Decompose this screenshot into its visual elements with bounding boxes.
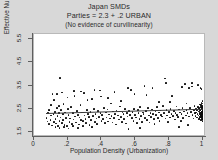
scatter-point (124, 108, 126, 110)
scatter-point (123, 113, 125, 115)
scatter-point (58, 105, 60, 107)
scatter-point (150, 116, 152, 118)
scatter-point (62, 119, 64, 121)
scatter-point (74, 116, 76, 118)
scatter-point (157, 117, 159, 119)
scatter-point (158, 112, 160, 114)
y-tick-mark (28, 61, 32, 62)
scatter-point (188, 116, 190, 118)
scatter-point (196, 117, 198, 119)
y-tick-label: 3.5 (12, 78, 26, 92)
scatter-point (82, 125, 84, 127)
scatter-point (148, 115, 150, 117)
scatter-point (91, 98, 93, 100)
scatter-point (55, 118, 57, 120)
scatter-point (88, 116, 90, 118)
scatter-point (77, 114, 79, 116)
scatter-point (153, 118, 155, 120)
scatter-point (48, 123, 50, 125)
scatter-point (68, 128, 70, 130)
scatter-point (171, 95, 173, 97)
scatter-point (92, 115, 94, 117)
scatter-point (178, 126, 180, 128)
scatter-point (127, 87, 129, 89)
scatter-point (139, 127, 141, 129)
scatter-point (191, 82, 193, 84)
scatter-point (130, 89, 132, 91)
scatter-point (181, 113, 183, 115)
scatter-point (187, 124, 189, 126)
scatter-point (200, 116, 202, 118)
scatter-point (62, 113, 64, 115)
scatter-point (102, 118, 104, 120)
scatter-point (166, 115, 168, 117)
scatter-point (46, 117, 48, 119)
scatter-point (186, 103, 188, 105)
scatter-point (75, 122, 77, 124)
scatter-point (117, 115, 119, 117)
scatter-point (156, 106, 158, 108)
scatter-point (202, 100, 204, 102)
scatter-point (165, 82, 167, 84)
scatter-point (83, 92, 85, 94)
scatter-point (126, 112, 128, 114)
scatter-point (133, 120, 135, 122)
scatter-point (176, 106, 178, 108)
chart-titles: Japan SMDs Parties = 2.3 + .2 URBAN (No … (0, 2, 218, 29)
scatter-point (188, 87, 190, 89)
scatter-point (193, 118, 195, 120)
chart-annotation: (No evidence of curvilinearity) (0, 20, 218, 29)
scatter-point (55, 126, 57, 128)
scatter-point (161, 116, 163, 118)
scatter-point (67, 108, 69, 110)
scatter-point (111, 115, 113, 117)
scatter-point (172, 115, 174, 117)
y-tick-mark (28, 108, 32, 109)
scatter-point (118, 119, 120, 121)
scatter-point (147, 107, 149, 109)
scatter-point (107, 121, 109, 123)
scatter-point (59, 77, 61, 79)
scatter-point (191, 86, 193, 88)
x-axis-line (32, 136, 206, 137)
scatter-point (94, 121, 96, 123)
x-axis-title: Population Density (Urbanization) (33, 147, 205, 154)
scatter-point (174, 119, 176, 121)
y-tick-label: 1.5 (12, 124, 26, 138)
scatter-point (84, 115, 86, 117)
scatter-point (94, 89, 96, 91)
scatter-point (63, 126, 65, 128)
scatter-point (127, 116, 129, 118)
scatter-point (96, 123, 98, 125)
scatter-point (120, 100, 122, 102)
scatter-point (51, 125, 53, 127)
scatter-point (152, 87, 154, 89)
scatter-point (69, 121, 71, 123)
scatter-point (48, 109, 50, 111)
scatter-point (65, 117, 67, 119)
scatter-point (152, 113, 154, 115)
scatter-point (73, 119, 75, 121)
scatter-point (187, 112, 189, 114)
scatter-point (96, 118, 98, 120)
scatter-point (154, 123, 156, 125)
scatter-point (50, 119, 52, 121)
scatter-point (168, 111, 170, 113)
scatter-point (183, 111, 185, 113)
scatter-point (131, 117, 133, 119)
scatter-point (103, 107, 105, 109)
scatter-point (72, 125, 74, 127)
y-tick-mark (28, 38, 32, 39)
scatter-point (199, 113, 201, 115)
scatter-point (128, 128, 130, 130)
scatter-point (47, 121, 49, 123)
scatter-point (167, 121, 169, 123)
scatter-point (56, 93, 58, 95)
scatter-point (133, 108, 135, 110)
scatter-point (158, 101, 160, 103)
scatter-point (60, 117, 62, 119)
scatter-point (78, 124, 80, 126)
scatter-point (68, 114, 70, 116)
scatter-point (82, 120, 84, 122)
scatter-point (200, 104, 202, 106)
